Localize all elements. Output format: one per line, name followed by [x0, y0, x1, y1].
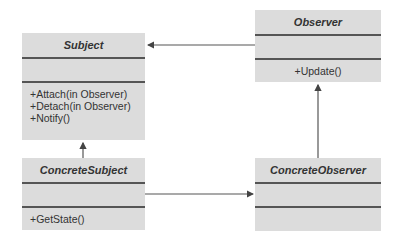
divider: [22, 182, 145, 184]
class-concrete-observer[interactable]: ConcreteObserver: [255, 158, 381, 231]
operations: +Update(): [255, 65, 381, 77]
divider: [255, 58, 381, 60]
class-name: Observer: [255, 16, 381, 28]
operations: +GetState(): [22, 213, 145, 225]
operation: +Notify(): [30, 112, 145, 124]
class-name: ConcreteObserver: [255, 164, 381, 176]
class-name: ConcreteSubject: [22, 164, 145, 176]
operation: +Update(): [255, 65, 381, 77]
class-name: Subject: [22, 39, 145, 51]
class-observer[interactable]: Observer +Update(): [255, 10, 381, 82]
divider: [255, 34, 381, 36]
operation: +GetState(): [30, 213, 145, 225]
divider: [22, 81, 145, 83]
class-concrete-subject[interactable]: ConcreteSubject +GetState(): [22, 158, 145, 230]
operations: +Attach(in Observer) +Detach(in Observer…: [22, 88, 145, 124]
operation: +Detach(in Observer): [30, 100, 145, 112]
divider: [22, 57, 145, 59]
divider: [255, 206, 381, 208]
divider: [255, 182, 381, 184]
class-subject[interactable]: Subject +Attach(in Observer) +Detach(in …: [22, 33, 145, 140]
divider: [22, 206, 145, 208]
operation: +Attach(in Observer): [30, 88, 145, 100]
